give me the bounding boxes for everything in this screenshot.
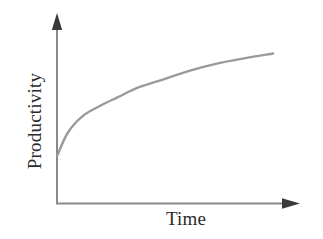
y-axis-arrowhead — [52, 13, 62, 30]
productivity-vs-time-chart: Productivity Time — [0, 0, 323, 239]
productivity-curve — [57, 54, 273, 157]
x-axis-label: Time — [126, 208, 246, 230]
x-axis-arrowhead — [282, 198, 300, 208]
chart-plot-area — [0, 0, 323, 239]
y-axis-label: Productivity — [24, 41, 46, 201]
